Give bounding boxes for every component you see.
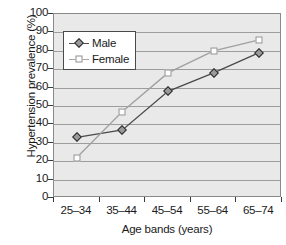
y-axis-tick-label: 100 [20,7,48,19]
y-axis-tick-labels: 0102030405060708090100 [20,13,48,197]
data-point-female-3 [210,47,217,54]
y-axis-tick-mark [48,142,53,143]
data-point-female-4 [256,36,263,43]
legend-label-male: Male [92,37,116,49]
x-axis-title: Age bands (years) [53,223,281,235]
x-axis-tick-labels: 25–3435–4445–5455–6465–74 [53,204,281,220]
data-point-female-0 [73,154,80,161]
y-axis-tick-label: 60 [20,81,48,93]
y-axis-tick-label: 30 [20,136,48,148]
x-axis-tick-mark [235,197,236,202]
hypertension-prevalence-line-chart: Hypertension prevalence (%) 010203040506… [0,0,286,245]
x-axis-tick-label: 35–44 [106,204,136,216]
y-axis-tick-label: 70 [20,62,48,74]
x-axis-tick-label: 65–74 [243,204,273,216]
x-axis-tick-label: 45–54 [152,204,182,216]
chart-legend: Male Female [63,31,136,70]
y-axis-tick-mark [48,179,53,180]
y-axis-tick-label: 10 [20,173,48,185]
data-point-female-1 [119,108,126,115]
x-axis-tick-mark [99,197,100,202]
y-axis-tick-label: 50 [20,99,48,111]
legend-item-female: Female [69,51,131,67]
y-axis-tick-mark [48,50,53,51]
data-point-female-2 [165,69,172,76]
y-axis-tick-mark [48,160,53,161]
y-axis-tick-mark [48,13,53,14]
x-axis-tick-label: 55–64 [197,204,227,216]
x-axis-tick-mark [190,197,191,202]
x-axis-tick-mark [53,197,54,202]
legend-item-male: Male [69,35,131,51]
y-axis-tick-mark [48,68,53,69]
legend-label-female: Female [92,53,129,65]
y-axis-tick-mark [48,31,53,32]
y-axis-tick-mark [48,123,53,124]
open-square-marker-icon [69,53,89,65]
y-axis-tick-mark [48,105,53,106]
filled-diamond-marker-icon [69,37,89,49]
x-axis-tick-mark [144,197,145,202]
y-axis-tick-label: 20 [20,154,48,166]
x-axis-tick-label: 25–34 [61,204,91,216]
y-axis-tick-mark [48,87,53,88]
x-axis-tick-mark [281,197,282,202]
y-axis-tick-label: 40 [20,118,48,130]
y-axis-tick-label: 80 [20,44,48,56]
y-axis-tick-label: 90 [20,26,48,38]
y-axis-tick-label: 0 [20,191,48,203]
